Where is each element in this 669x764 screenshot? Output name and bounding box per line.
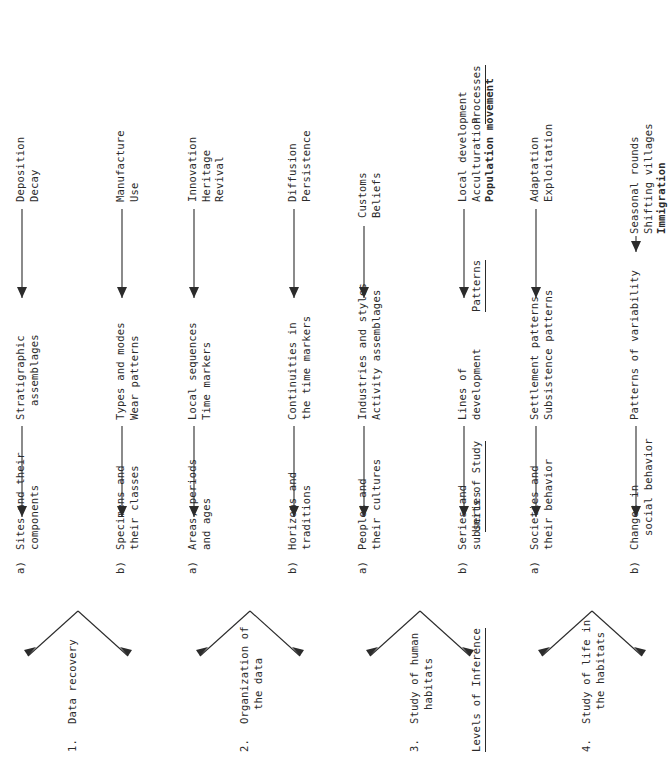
process-label-4b-1: Shifting villages [642, 123, 656, 234]
arrow-pattern-to-process-4b [631, 236, 641, 252]
process-label-4a-1: Exploitation [542, 124, 556, 202]
process-label-4b-0: Seasonal rounds [628, 136, 642, 234]
level-name-4: Study of life in [580, 620, 594, 724]
arrow-pattern-to-process-4a [531, 209, 541, 298]
unit-label-4b: Changes in [628, 485, 642, 550]
process-label-4b-2: Immigration [655, 162, 669, 234]
unit-tag-4a: a) [528, 561, 542, 574]
pattern-label-4b: Patterns of variability [628, 270, 642, 420]
process-label-4a-0: Adaptation [528, 137, 542, 202]
level-name-4-line2: the habitats [594, 632, 608, 710]
unit-label-4b-line2: social behavior [642, 438, 656, 536]
pattern-label-4a-line2: Subsistence patterns [542, 290, 556, 420]
level-number-4: 4. [580, 739, 594, 752]
unit-tag-4b: b) [628, 561, 642, 574]
pattern-label-4a: Settlement patterns [528, 296, 542, 420]
unit-label-4a-line2: their behavior [542, 459, 556, 550]
